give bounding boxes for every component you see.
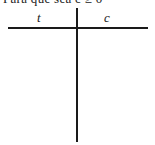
column-header-t: t — [37, 11, 41, 24]
caption-text: Para que sea c ≥ 0 — [3, 0, 103, 7]
header-divider-line — [8, 27, 148, 29]
column-divider-line — [76, 8, 78, 142]
column-header-c: c — [104, 11, 110, 24]
